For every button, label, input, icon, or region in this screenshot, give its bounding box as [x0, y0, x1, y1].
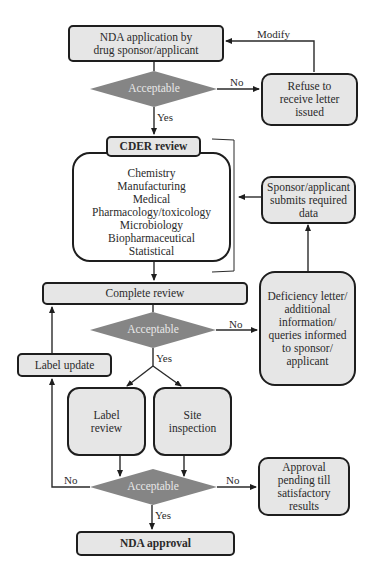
decision-2-label: Acceptable: [109, 323, 197, 335]
decision-1-label: Acceptable: [110, 82, 198, 94]
approval-pending-label: Approval pending till satisfactory resul…: [266, 461, 342, 513]
site-inspection-box: Site inspection: [153, 387, 232, 456]
edge-label-d2-yes: Yes: [156, 352, 172, 364]
cder-item: Pharmacology/toxicology: [92, 206, 211, 219]
deficiency-letter-label: Deficiency letter/ additional informatio…: [267, 290, 348, 368]
complete-review-box: Complete review: [42, 282, 248, 305]
edge-label-d2-no: No: [229, 318, 242, 330]
edge-label-d1-yes: Yes: [157, 111, 173, 123]
label-review-label: Label review: [83, 409, 130, 435]
edge-label-d3-no-left: No: [64, 474, 77, 486]
edge-label-d3-no-right: No: [226, 474, 239, 486]
site-inspection-label: Site inspection: [161, 409, 224, 435]
cder-item: Manufacturing: [117, 180, 185, 193]
sponsor-submits-label: Sponsor/applicant submits required data: [267, 181, 350, 220]
deficiency-letter-box: Deficiency letter/ additional informatio…: [259, 271, 356, 386]
cder-item: Medical: [133, 193, 171, 206]
cder-item: Biopharmaceutical: [108, 232, 195, 245]
cder-item: Statistical: [129, 245, 174, 258]
label-review-box: Label review: [67, 387, 146, 456]
nda-approval-box: NDA approval: [76, 531, 235, 556]
cder-item: Microbiology: [120, 219, 183, 232]
nda-application-box: NDA application by drug sponsor/applican…: [68, 25, 224, 62]
refuse-letter-label: Refuse to receive letter issued: [271, 80, 348, 119]
cder-review-title-box: CDER review: [106, 136, 201, 157]
edge-label-d3-yes: Yes: [155, 509, 171, 521]
edge-label-modify: Modify: [257, 28, 290, 40]
decision-3-label: Acceptable: [109, 480, 197, 492]
sponsor-submits-box: Sponsor/applicant submits required data: [261, 176, 356, 224]
label-update-label: Label update: [35, 359, 95, 372]
approval-pending-box: Approval pending till satisfactory resul…: [258, 457, 350, 516]
edge-label-d1-no: No: [230, 76, 243, 88]
cder-review-title: CDER review: [120, 140, 188, 153]
refuse-letter-box: Refuse to receive letter issued: [261, 73, 358, 126]
nda-application-label: NDA application by drug sponsor/applican…: [90, 31, 202, 57]
cder-review-items: Chemistry Manufacturing Medical Pharmaco…: [92, 167, 211, 258]
complete-review-label: Complete review: [106, 287, 185, 300]
cder-review-box: Chemistry Manufacturing Medical Pharmaco…: [72, 152, 231, 262]
label-update-box: Label update: [17, 353, 112, 377]
nda-approval-label: NDA approval: [120, 537, 191, 550]
cder-item: Chemistry: [128, 167, 176, 180]
